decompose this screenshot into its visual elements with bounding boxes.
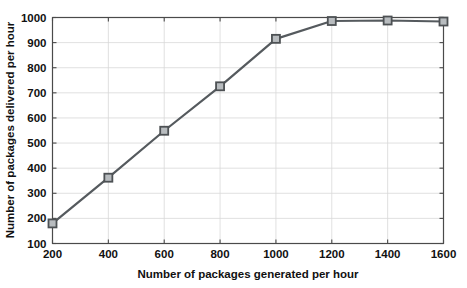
- data-point-marker: [272, 35, 280, 43]
- chart-background: [0, 0, 467, 288]
- y-axis-tick-label: 700: [27, 87, 46, 99]
- data-point-marker: [384, 17, 392, 25]
- chart-screenshot: 1002003004005006007008009001000 20040060…: [0, 0, 467, 288]
- y-axis-tick-label: 600: [27, 112, 46, 124]
- line-chart: 1002003004005006007008009001000 20040060…: [0, 0, 467, 288]
- y-axis-tick-label: 900: [27, 37, 46, 49]
- x-axis-tick-label: 1400: [375, 248, 401, 260]
- x-axis-tick-label: 1200: [319, 248, 345, 260]
- y-axis-tick-label: 200: [27, 212, 46, 224]
- y-axis-title: Number of packages delivered per hour: [4, 21, 16, 238]
- data-point-marker: [440, 18, 448, 26]
- x-axis-tick-label: 1600: [431, 248, 457, 260]
- y-axis-tick-label: 400: [27, 162, 46, 174]
- y-axis-tick-label: 500: [27, 137, 46, 149]
- x-axis-title: Number of packages generated per hour: [137, 268, 359, 280]
- x-axis-tick-label: 600: [155, 248, 174, 260]
- y-axis-tick-label: 300: [27, 187, 46, 199]
- x-axis-tick-label: 800: [210, 248, 229, 260]
- data-point-marker: [49, 219, 57, 227]
- x-axis-tick-label: 400: [99, 248, 118, 260]
- chart-figure: 1002003004005006007008009001000 20040060…: [0, 0, 467, 288]
- data-point-marker: [104, 174, 112, 182]
- y-axis-tick-label: 800: [27, 62, 46, 74]
- x-axis-tick-label: 200: [43, 248, 62, 260]
- data-point-marker: [160, 127, 168, 135]
- y-axis-tick-label: 1000: [21, 12, 47, 24]
- data-point-marker: [216, 82, 224, 90]
- x-axis-tick-label: 1000: [263, 248, 289, 260]
- data-point-marker: [328, 17, 336, 25]
